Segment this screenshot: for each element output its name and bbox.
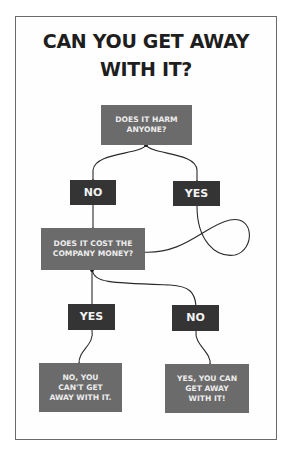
- answer-yes-cost: YES: [68, 304, 115, 330]
- question-harm-anyone: DOES IT HARM ANYONE?: [101, 105, 192, 145]
- result-cant-get-away: NO, YOU CAN'T GET AWAY WITH IT.: [39, 363, 122, 412]
- answer-no-harm: NO: [70, 180, 116, 205]
- result-can-get-away: YES, YOU CAN GET AWAY WITH IT!: [165, 364, 249, 413]
- answer-no-cost: NO: [172, 305, 219, 331]
- question-cost-money: DOES IT COST THE COMPANY MONEY?: [41, 228, 145, 270]
- answer-yes-harm: YES: [173, 181, 220, 206]
